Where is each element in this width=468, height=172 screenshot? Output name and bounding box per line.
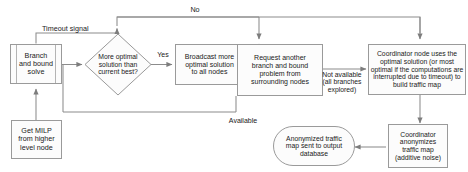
edge-label-no: No: [180, 6, 210, 14]
predefined-process-bar-left: [16, 45, 17, 83]
edge-label-not-available: Not available (all branches explored): [316, 71, 368, 93]
node-broadcast-solution[interactable]: Broadcast more optimal solution to all n…: [175, 44, 244, 85]
predefined-process-bar-right: [55, 45, 56, 83]
node-coordinator-builds-map[interactable]: Coordinator node uses the optimal soluti…: [368, 44, 466, 95]
node-get-milp-label: Get MILP from higher level node: [18, 127, 54, 151]
edge-label-available: Available: [223, 117, 263, 125]
edge-label-yes: Yes: [152, 51, 174, 59]
node-get-milp[interactable]: Get MILP from higher level node: [11, 120, 62, 159]
node-coordinator-anonymizes[interactable]: Coordinator anonymizes traffic map (addi…: [388, 124, 448, 168]
node-branch-and-bound-solve-label: Branch and bound solve: [19, 52, 53, 76]
node-more-optimal-decision[interactable]: More optimal solution than current best?: [84, 33, 152, 96]
node-request-another-problem-label: Request another branch and bound problem…: [251, 54, 309, 85]
node-coordinator-builds-map-label: Coordinator node uses the optimal soluti…: [371, 50, 464, 88]
node-coordinator-anonymizes-label: Coordinator anonymizes traffic map (addi…: [395, 131, 441, 161]
node-anonymized-output[interactable]: Anonymized traffic map sent to output da…: [273, 126, 355, 166]
edge-label-timeout-signal: Timeout signal: [42, 25, 104, 33]
node-broadcast-solution-label: Broadcast more optimal solution to all n…: [185, 53, 234, 76]
node-more-optimal-decision-label: More optimal solution than current best?: [84, 33, 152, 96]
edge-no-route: [117, 17, 420, 33]
node-request-another-problem[interactable]: Request another branch and bound problem…: [237, 44, 323, 96]
node-anonymized-output-label: Anonymized traffic map sent to output da…: [286, 135, 342, 158]
node-branch-and-bound-solve[interactable]: Branch and bound solve: [10, 44, 62, 84]
